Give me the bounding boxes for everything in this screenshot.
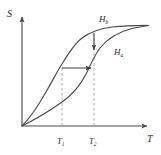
curve-label-hb: Hb	[98, 14, 109, 25]
tick-label-t2: T2	[89, 136, 97, 147]
curve-ha	[22, 26, 148, 126]
curve-label-ha-sub: a	[121, 52, 124, 58]
y-axis-label: S	[7, 8, 12, 19]
entropy-temperature-figure: S T T1 T2 Hb Ha	[0, 0, 161, 155]
x-axis-label: T	[147, 133, 154, 144]
tick-label-t2-sub: 2	[94, 141, 97, 147]
curve-label-ha: Ha	[113, 47, 124, 58]
curve-label-hb-sub: b	[106, 19, 109, 25]
figure-canvas: S T T1 T2 Hb Ha	[0, 0, 161, 155]
tick-label-t1-sub: 1	[62, 141, 65, 147]
tick-label-t1: T1	[57, 136, 65, 147]
